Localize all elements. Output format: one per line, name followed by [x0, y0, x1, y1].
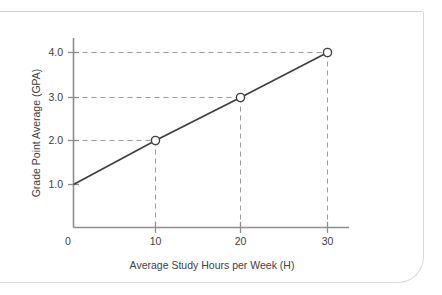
data-point-20-3-0: [236, 93, 244, 101]
x-tick-label-0: 0: [65, 235, 71, 247]
data-point-30-4-0: [323, 48, 331, 56]
data-line-series-1: [74, 53, 328, 185]
y-axis-title: Grade Point Average (GPA): [30, 69, 42, 198]
y-tick-label-1-0: 1.0: [48, 178, 63, 190]
x-tick-label-30: 30: [322, 235, 334, 247]
horizontal-guide-lines: [74, 53, 328, 141]
line-chart-svg: 4.0 3.0 2.0 1.0 0 10 20 30 Grade Point A…: [0, 0, 442, 295]
x-axis-title: Average Study Hours per Week (H): [130, 259, 295, 271]
y-tick-label-3-0: 3.0: [48, 91, 63, 103]
vertical-guide-lines: [156, 53, 328, 228]
x-tick-label-20: 20: [235, 235, 247, 247]
chart-figure: 4.0 3.0 2.0 1.0 0 10 20 30 Grade Point A…: [0, 0, 442, 295]
data-point-10-2-0: [151, 136, 159, 144]
plot-area: 4.0 3.0 2.0 1.0 0 10 20 30 Grade Point A…: [0, 0, 442, 295]
data-point-markers: [151, 48, 331, 144]
y-tick-label-2-0: 2.0: [48, 134, 63, 146]
x-tick-label-10: 10: [150, 235, 162, 247]
y-tick-label-4-0: 4.0: [48, 46, 63, 58]
